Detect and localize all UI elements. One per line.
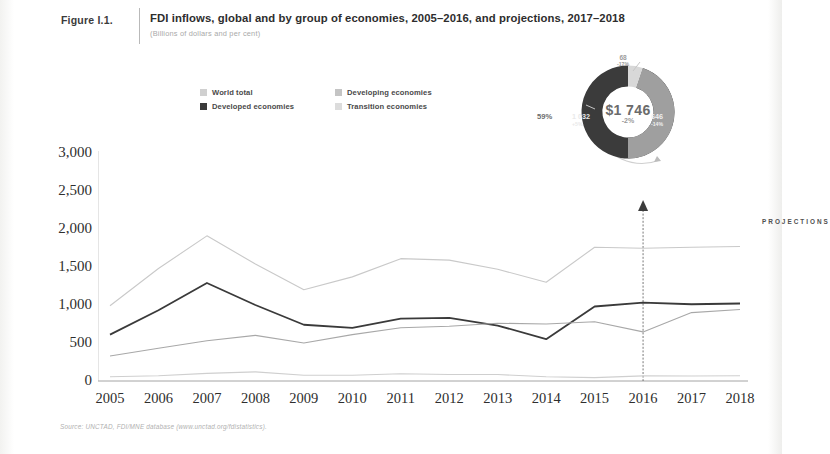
y-axis-tick: 1,500 [0,258,92,275]
donut-label-developing-value: 646 [651,112,663,121]
legend-swatch-icon [200,89,207,96]
legend-row: Developed economies Transition economies [200,102,432,111]
legend-label: Developed economies [212,102,294,111]
projections-annotation: PROJECTIONS [762,218,830,225]
line-chart-svg [98,148,748,386]
legend-item-transition-economies: Transition economies [335,102,427,111]
figure-title: FDI inflows, global and by group of econ… [150,12,750,24]
legend-swatch-icon [200,103,207,110]
legend-swatch-icon [335,103,342,110]
x-axis-tick: 2012 [435,390,464,407]
source-note: Source: UNCTAD, FDI/MNE database (www.un… [60,423,267,430]
series-line-world-total [110,236,740,306]
donut-label-developed-value: 1 032 [572,112,590,121]
x-axis-tick: 2009 [289,390,318,407]
legend-row: World total Developing economies [200,88,432,97]
legend-item-developing-economies: Developing economies [335,88,432,97]
donut-label-share-percent: 59% [537,112,552,121]
x-axis-tick: 2018 [726,390,755,407]
legend-swatch-icon [335,89,342,96]
series-line-transition-economies [110,372,740,378]
figure-label: Figure I.1. [61,14,113,26]
donut-label-developed-percent: +5% [572,121,590,127]
line-chart-plot-area: 05001,0001,5002,0002,5003,000 2005200620… [98,148,748,386]
figure-divider [139,8,140,44]
x-axis-tick: 2011 [387,390,415,407]
donut-segment-transition [628,76,639,78]
x-axis-tick: 2015 [580,390,609,407]
x-axis-tick: 2006 [144,390,173,407]
x-axis-tick: 2008 [241,390,270,407]
y-axis-tick: 0 [0,372,92,389]
y-axis-tick: 2,000 [0,220,92,237]
y-axis-tick: 3,000 [0,144,92,161]
series-line-developing-economies [110,310,740,356]
chart-legend: World total Developing economies Develop… [200,88,432,116]
x-axis-tick: 2014 [532,390,561,407]
donut-label-transition-value: 68 [617,54,629,61]
figure-subtitle: (Billions of dollars and per cent) [150,29,260,38]
projection-arrow-icon [638,200,648,211]
y-axis-tick: 1,000 [0,296,92,313]
donut-label-developing: 646 -14% [651,112,663,127]
y-axis-tick: 500 [0,334,92,351]
legend-item-developed-economies: Developed economies [200,102,335,111]
x-axis-tick: 2010 [338,390,367,407]
legend-label: Developing economies [347,88,432,97]
donut-label-transition: 68 -17% [617,54,629,67]
x-axis-tick: 2005 [96,390,125,407]
legend-item-world-total: World total [200,88,335,97]
donut-label-transition-percent: -17% [617,61,629,67]
x-axis-tick: 2007 [192,390,221,407]
x-axis-tick: 2016 [629,390,658,407]
legend-label: World total [212,88,253,97]
legend-label: Transition economies [347,102,427,111]
x-axis-tick: 2017 [677,390,706,407]
donut-label-developing-percent: -14% [651,121,663,127]
donut-label-developed: 1 032 +5% [572,112,590,127]
x-axis-tick: 2013 [483,390,512,407]
y-axis-tick: 2,500 [0,182,92,199]
